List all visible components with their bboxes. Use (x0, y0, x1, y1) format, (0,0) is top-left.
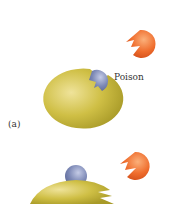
substrate-molecule-b (120, 152, 150, 180)
enzyme-b-distorted (30, 180, 114, 204)
enzyme-inhibition-diagram (0, 0, 172, 204)
substrate-molecule-a (126, 30, 156, 58)
poison-label: Poison (114, 73, 144, 82)
panel-a-label: (a) (8, 120, 20, 129)
enzyme-a (43, 69, 123, 129)
panel-b (30, 152, 150, 204)
